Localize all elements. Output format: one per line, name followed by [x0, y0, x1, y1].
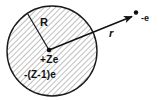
nucleus-charge-label: +Ze: [40, 55, 59, 65]
radius-label: R: [40, 17, 48, 28]
atom-diagram-figure: R +Ze -(Z-1)e r -e: [0, 0, 158, 100]
electron-cloud-charge-label: -(Z-1)e: [24, 70, 56, 80]
nucleus-dot: [47, 48, 52, 53]
electron-dot: [134, 10, 138, 14]
position-vector-label: r: [109, 28, 113, 39]
atom-sphere: [7, 6, 97, 96]
electron-charge-label: -e: [141, 14, 149, 23]
diagram-canvas: [0, 0, 158, 100]
